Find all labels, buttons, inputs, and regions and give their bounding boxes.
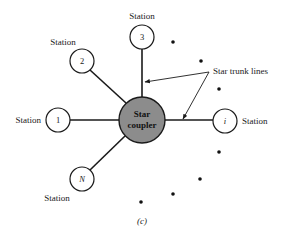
ellipsis-dot	[198, 177, 202, 181]
trunk-lines-label: Star trunk lines	[213, 66, 268, 76]
ellipsis-dot	[217, 150, 221, 154]
station-1-label: Station	[15, 115, 41, 125]
ellipsis-dot	[171, 40, 175, 44]
ellipsis-dot	[217, 87, 221, 91]
star-coupler: Star coupler	[119, 97, 165, 143]
star-topology-diagram: Star coupler 3 Station 2 Station 1 Stati…	[0, 0, 286, 235]
station-n-label: Station	[44, 193, 70, 203]
station-n: N Station	[44, 167, 94, 203]
station-3: 3 Station	[129, 11, 155, 49]
trunk-line-2	[90, 70, 126, 103]
station-1: 1 Station	[15, 108, 70, 132]
station-1-id: 1	[56, 115, 60, 125]
star-coupler-label-line1: Star	[134, 109, 151, 119]
ellipsis-dot	[199, 59, 203, 63]
star-coupler-label-line2: coupler	[128, 120, 157, 130]
ellipsis-dot	[171, 192, 175, 196]
station-3-label: Station	[129, 11, 155, 21]
station-2-label: Station	[50, 37, 76, 47]
annotation-arrow-1	[145, 72, 209, 82]
annotation-arrow-2	[183, 72, 209, 119]
station-2: 2 Station	[50, 37, 94, 73]
figure-caption: (c)	[137, 216, 147, 226]
trunk-line-n	[90, 136, 125, 170]
station-i: i Station	[213, 109, 268, 133]
station-2-id: 2	[80, 56, 84, 66]
ellipsis-dot	[139, 200, 143, 204]
station-3-id: 3	[140, 32, 144, 42]
station-i-label: Station	[242, 116, 268, 126]
